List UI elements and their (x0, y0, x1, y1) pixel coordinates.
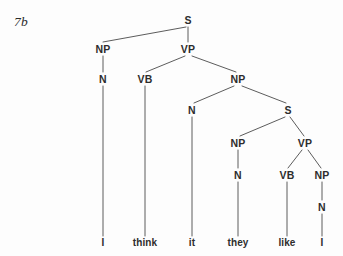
tree-terminal-word: I (102, 238, 105, 248)
tree-terminal-word: I (321, 238, 324, 248)
tree-node-s: S (284, 105, 291, 116)
tree-terminal-word: like (278, 238, 295, 248)
tree-node-np: NP (315, 170, 330, 181)
tree-edges-layer (0, 0, 343, 256)
tree-node-n: N (318, 202, 326, 213)
tree-edge (288, 150, 302, 168)
tree-node-np: NP (231, 74, 246, 85)
tree-edge (192, 56, 236, 72)
tree-node-n: N (99, 74, 107, 85)
tree-edge (103, 27, 186, 42)
tree-edge (240, 117, 285, 136)
tree-node-vp: VP (181, 44, 195, 55)
tree-edge (308, 150, 321, 168)
tree-node-np: NP (96, 44, 111, 55)
tree-node-np: NP (231, 138, 246, 149)
tree-terminal-word: it (189, 238, 195, 248)
syntax-tree-figure: 7b SNPVPNVBNPNSNPVPNVBNPN Ithinkittheyli… (0, 0, 343, 256)
tree-edge (146, 56, 185, 72)
tree-node-n: N (188, 105, 196, 116)
tree-edge (290, 117, 304, 136)
tree-edge (242, 86, 286, 103)
tree-node-n: N (234, 170, 242, 181)
tree-edge (194, 86, 234, 103)
tree-terminal-word: they (228, 238, 249, 248)
tree-terminal-word: think (133, 238, 157, 248)
tree-node-vp: VP (298, 138, 312, 149)
tree-node-vb: VB (280, 170, 295, 181)
tree-node-vb: VB (138, 74, 153, 85)
tree-node-s: S (184, 15, 191, 26)
